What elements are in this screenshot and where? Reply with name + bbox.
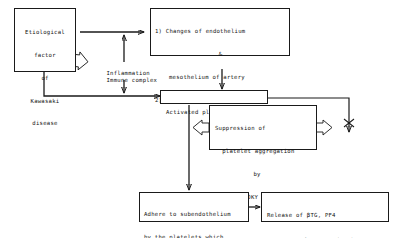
hollow-arrow-suppression-right <box>316 120 332 135</box>
inflammation-line-2: Immune complex <box>106 77 157 83</box>
activated-platelets-box: Activated platelets <box>160 90 268 104</box>
changes-line-2: & <box>155 51 286 59</box>
inflammation-line-1: Inflammation <box>106 70 149 76</box>
release-products-box: Release of βTG, PF4 Increase of MDA prod… <box>261 192 389 222</box>
adhere-line-2: by the platelets which <box>144 234 245 238</box>
suppression-line-1: Suppression of <box>215 125 313 133</box>
etiological-factor-box: Etiological factor of Kawasaki disease <box>14 8 76 72</box>
adhere-subendothelium-box: Adhere to subendothelium by the platelet… <box>139 192 249 222</box>
vascular-changes-box: 1) Changes of endothelium & mesothelium … <box>150 8 290 56</box>
etiological-line-1: Etiological <box>18 29 72 37</box>
inflammation-immune-complex-label: Inflammation Immune complex <box>92 62 157 92</box>
suppression-line-3: by <box>215 171 313 179</box>
changes-line-1: 1) Changes of endothelium <box>155 28 286 36</box>
adhere-line-1: Adhere to subendothelium <box>144 211 245 219</box>
release-line-1: Release of βTG, PF4 <box>267 212 385 222</box>
etiological-line-2: factor <box>18 52 72 60</box>
release-line-2: Increase of MDA production <box>267 237 385 238</box>
suppression-box: Suppression of platelet aggregation by A… <box>209 105 317 150</box>
flowchart-canvas: Etiological factor of Kawasaki disease 1… <box>0 0 403 238</box>
suppression-line-2: platelet aggregation <box>215 148 313 156</box>
changes-line-3: mesothelium of artery <box>155 74 286 82</box>
etiological-line-5: disease <box>18 120 72 128</box>
etiological-line-4: Kawasaki <box>18 98 72 106</box>
etiological-line-3: of <box>18 75 72 83</box>
